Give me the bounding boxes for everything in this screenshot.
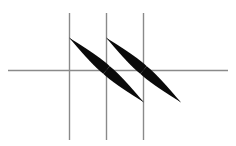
figure-canvas: a b c d e f g h i j k l m n o p q r <box>0 0 236 146</box>
figure-graphic <box>0 0 236 146</box>
figure-background <box>0 0 236 146</box>
